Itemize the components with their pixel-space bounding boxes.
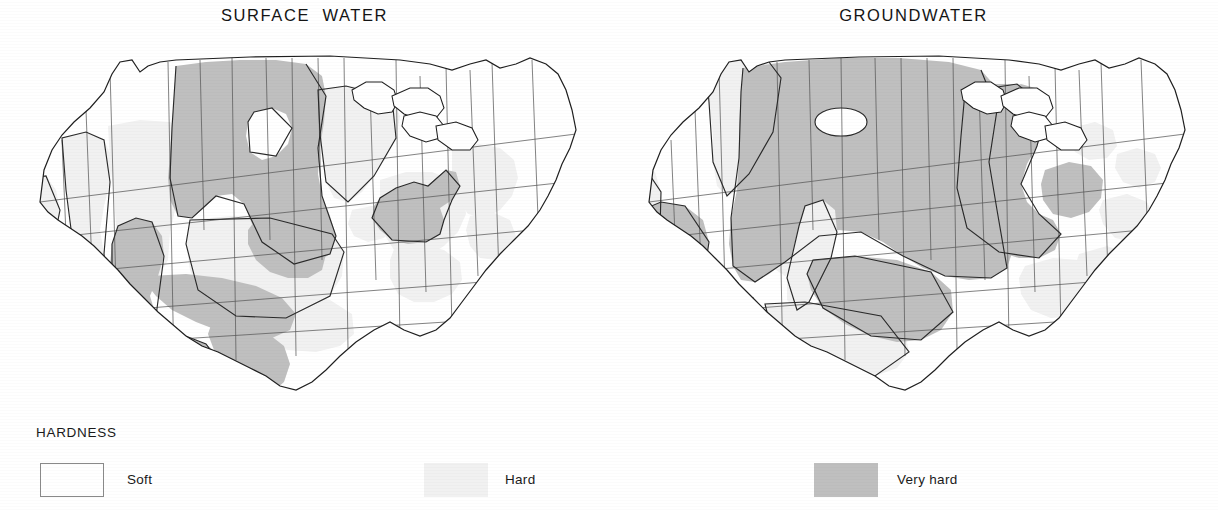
map-panel-surface-water: SURFACE WATER [0,0,609,425]
soft-pocket-nevada [651,269,679,291]
legend-label-very-hard: Very hard [897,472,957,487]
legend-label-soft: Soft [127,472,152,487]
panel-title-groundwater: GROUNDWATER [609,6,1218,25]
legend-swatch-soft [40,463,104,497]
legend-title: HARDNESS [36,425,117,440]
map-panel-groundwater: GROUNDWATER [609,0,1218,425]
very-hard-region-border-arm [58,274,110,318]
us-map-surface-water [0,30,609,425]
soft-pocket-arizona [697,306,721,334]
legend-swatch-hard [424,463,488,497]
legend-label-hard: Hard [505,472,535,487]
legend-swatch-very-hard [814,463,878,497]
us-map-groundwater [609,30,1218,425]
legend: HARDNESS Soft Hard Very hard [0,420,1218,510]
panel-title-surface-water: SURFACE WATER [0,6,609,25]
very-hard-region-florida [1111,312,1149,400]
water-hardness-figure: SURFACE WATER [0,0,1218,510]
